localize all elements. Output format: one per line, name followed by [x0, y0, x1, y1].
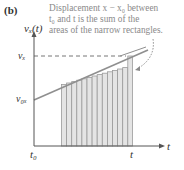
velocity-time-diagram	[0, 0, 184, 170]
y-axis-arrow-icon	[32, 31, 37, 37]
dotted-arrow-head	[135, 66, 140, 71]
narrow-rectangles	[62, 56, 133, 146]
x-axis-arrow-icon	[159, 144, 165, 149]
caption-leader-line	[120, 47, 146, 56]
